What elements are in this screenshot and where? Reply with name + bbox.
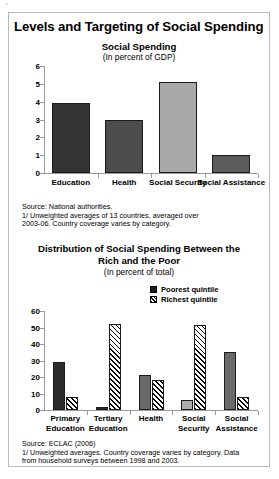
chart1-y-axis (44, 66, 45, 174)
bar (152, 380, 164, 410)
bar (53, 362, 65, 410)
bar (66, 397, 78, 410)
x-tick-label: Social Assistance (197, 178, 265, 188)
y-tick-label: 4 (36, 97, 40, 106)
bar (237, 397, 249, 410)
y-tick (40, 137, 44, 138)
chart2-y-axis (44, 311, 45, 411)
y-tick-label: 50 (31, 323, 40, 332)
chart2-source-note: Source: ECLAC (2006) 1/ Unweighted avera… (22, 440, 262, 466)
bar (52, 103, 90, 173)
y-tick (40, 120, 44, 121)
y-tick-label: 2 (36, 133, 40, 142)
chart1-subtitle: (In percent of GDP) (8, 52, 270, 62)
chart2-title: Distribution of Social Spending Between … (8, 243, 270, 266)
bar (105, 120, 143, 174)
y-tick-label: 0 (36, 169, 40, 178)
x-tick-label: Social Assistance (203, 414, 271, 433)
y-tick (40, 344, 44, 345)
chart2-x-axis (44, 410, 258, 411)
chart1-source-note: Source: National authorities. 1/ Unweigh… (22, 203, 258, 229)
y-tick-label: 40 (31, 340, 40, 349)
chart2-legend: Poorest quintile Richest quintile (150, 285, 218, 305)
y-tick (40, 84, 44, 85)
legend-item-poorest: Poorest quintile (150, 285, 218, 294)
bar (109, 324, 121, 410)
y-tick-label: 20 (31, 373, 40, 382)
y-tick (40, 361, 44, 362)
y-tick (40, 173, 44, 174)
legend-label-richest: Richest quintile (161, 295, 218, 304)
y-tick (40, 394, 44, 395)
y-tick-label: 6 (36, 62, 40, 71)
legend-label-poorest: Poorest quintile (161, 285, 218, 294)
scan-artifact: ↑ (5, 1, 11, 9)
y-tick (40, 328, 44, 329)
y-tick (40, 66, 44, 67)
y-tick (40, 102, 44, 103)
y-tick-label: 3 (36, 115, 40, 124)
figure-page: ↑ Levels and Targeting of Social Spendin… (0, 0, 279, 479)
legend-swatch-poorest-icon (150, 286, 157, 293)
y-tick-label: 30 (31, 356, 40, 365)
bar (139, 375, 151, 410)
y-tick (40, 155, 44, 156)
y-tick (40, 377, 44, 378)
bar (224, 352, 236, 410)
bar (159, 82, 197, 173)
legend-swatch-richest-icon (150, 296, 157, 303)
y-tick-label: 5 (36, 79, 40, 88)
legend-item-richest: Richest quintile (150, 295, 218, 304)
bar (96, 407, 108, 410)
page-title: Levels and Targeting of Social Spending (14, 19, 266, 34)
bar (194, 325, 206, 410)
y-tick-label: 60 (31, 307, 40, 316)
chart2-plot-area: 0102030405060 (44, 311, 258, 411)
y-tick (40, 311, 44, 312)
y-tick-label: 1 (36, 151, 40, 160)
chart1-plot-area: 0123456 (44, 66, 258, 174)
y-tick-label: 10 (31, 389, 40, 398)
chart2-subtitle: (In percent of total) (8, 267, 270, 277)
bar (181, 400, 193, 410)
chart1-title: Social Spending (8, 41, 270, 52)
y-tick (40, 410, 44, 411)
bar (212, 155, 250, 173)
